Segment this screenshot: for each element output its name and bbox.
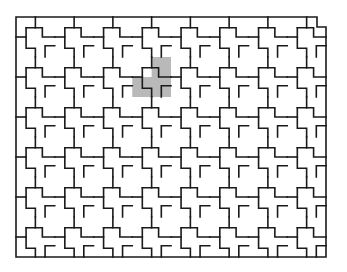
tiling-diagram — [0, 0, 347, 272]
tile-outlines — [16, 17, 326, 257]
